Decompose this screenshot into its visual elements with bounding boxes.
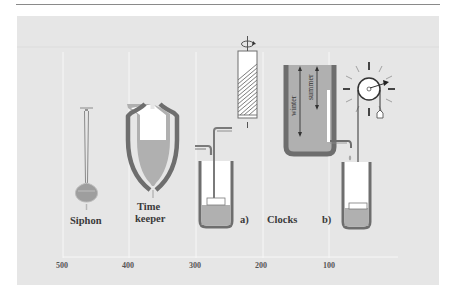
tick-100: 100 [323, 261, 335, 270]
tick-500: 500 [56, 261, 68, 270]
label-b: b) [322, 214, 332, 226]
timeline-axis: 500 400 300 200 100 [56, 261, 335, 270]
tick-300: 300 [189, 261, 201, 270]
label-a: a) [240, 214, 249, 226]
clocks-label: Clocks [267, 214, 297, 225]
timekeeper-label-line1: Time [137, 201, 160, 212]
clock-b-cylinder-icon [343, 162, 370, 228]
clock-b-tank-icon: winter summer [286, 65, 351, 169]
winter-label: winter [289, 95, 298, 116]
siphon-label: Siphon [70, 215, 102, 226]
rotating-drum-icon [238, 36, 257, 128]
siphon-icon [75, 108, 97, 210]
water-clock-diagram: winter summer [0, 0, 455, 299]
clock-a-cylinder-icon [195, 128, 232, 227]
timekeeper-vessel-icon [127, 104, 177, 198]
summer-label: summer [306, 74, 315, 100]
tick-200: 200 [255, 261, 267, 270]
tick-400: 400 [122, 261, 134, 270]
timekeeper-label-line2: keeper [135, 213, 166, 224]
